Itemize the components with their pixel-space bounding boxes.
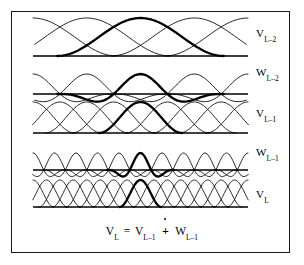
equation-lhs-symbol: V	[106, 225, 114, 237]
band-label-symbol: V	[256, 188, 264, 200]
band-label-symbol: V	[256, 107, 264, 119]
band-label-subscript: L–1	[267, 154, 279, 163]
basis-function	[64, 153, 131, 177]
basis-function	[187, 180, 229, 207]
basis-function	[106, 180, 148, 207]
equation-rhs-first: VL–1	[135, 225, 155, 237]
band-label-subscript: L–2	[267, 74, 279, 83]
band-label-w-l-minus-2: WL–2	[256, 66, 279, 81]
band-label-subscript: L–2	[264, 35, 276, 44]
equation-equals: =	[124, 225, 131, 237]
highlighted-basis-function	[57, 18, 224, 56]
band-label-v-l-minus-2: VL–2	[256, 27, 276, 42]
highlighted-basis-function	[107, 153, 174, 177]
decomposition-equation: VL = VL–1 + WL–1	[0, 224, 304, 240]
basis-function	[126, 102, 209, 133]
basis-function	[66, 180, 108, 207]
basis-function	[173, 180, 215, 207]
basis-function	[215, 153, 248, 177]
basis-function	[153, 102, 236, 133]
basis-function	[33, 74, 116, 102]
basis-function	[133, 180, 175, 207]
band-label-w-l-minus-1: WL–1	[256, 146, 279, 161]
plus-icon: +	[162, 224, 169, 238]
equation-rhs2-subscript: L–1	[186, 233, 198, 242]
basis-function	[45, 102, 128, 133]
band-label-symbol: V	[256, 27, 264, 39]
basis-function	[172, 153, 239, 177]
basis-function	[160, 180, 202, 207]
equation-rhs2-symbol: W	[175, 225, 186, 237]
band-label-symbol: W	[256, 66, 267, 78]
basis-function	[165, 74, 248, 102]
band-label-v-l: VL	[256, 188, 269, 203]
equation-lhs-subscript: L	[114, 233, 119, 242]
equation-rhs-second: WL–1	[175, 225, 198, 237]
highlighted-basis-function	[99, 102, 182, 133]
basis-function	[72, 102, 155, 133]
figure-root: VL–2 WL–2 VL–1 WL–1 VL VL = VL–1 + WL–1	[0, 0, 304, 265]
basis-function	[93, 180, 135, 207]
basis-function	[39, 180, 81, 207]
basis-function	[147, 180, 189, 207]
basis-function	[129, 153, 196, 177]
equation-rhs1-subscript: L–1	[143, 233, 155, 242]
basis-function	[86, 153, 153, 177]
basis-function	[43, 153, 110, 177]
band-label-subscript: L	[264, 196, 269, 205]
basis-function	[79, 180, 121, 207]
highlighted-basis-function	[120, 180, 162, 207]
band-label-subscript: L–1	[264, 115, 276, 124]
basis-function	[150, 153, 217, 177]
equation-lhs: VL	[106, 225, 119, 237]
highlighted-basis-function	[57, 74, 224, 102]
basis-function	[52, 180, 94, 207]
band-label-symbol: W	[256, 146, 267, 158]
dotted-direct-sum-icon: +	[159, 224, 171, 239]
basis-function	[33, 153, 66, 177]
basis-function	[200, 180, 242, 207]
band-label-v-l-minus-1: VL–1	[256, 107, 276, 122]
